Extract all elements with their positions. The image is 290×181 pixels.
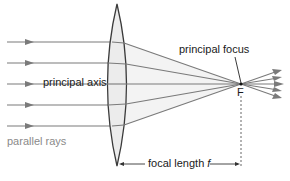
diverging-rays bbox=[241, 69, 284, 99]
arrow-right-icon bbox=[274, 81, 284, 87]
parallel-rays-label: parallel rays bbox=[7, 136, 66, 147]
arrow-right-icon bbox=[25, 123, 34, 129]
diagram-canvas bbox=[0, 0, 290, 181]
arrow-right-icon bbox=[25, 60, 34, 66]
arrow-right-icon bbox=[25, 102, 34, 108]
arrow-right-icon bbox=[272, 87, 282, 92]
focal-length-text: focal length bbox=[148, 157, 204, 169]
arrow-right-icon bbox=[25, 81, 34, 87]
focus-point-label: F bbox=[237, 87, 244, 98]
arrow-right-icon bbox=[272, 69, 282, 75]
principal-axis-label: principal axis bbox=[43, 77, 107, 88]
focal-length-symbol: f bbox=[207, 157, 210, 169]
arrow-right-icon bbox=[235, 162, 240, 166]
arrow-left-icon bbox=[119, 162, 124, 166]
converging-lens-diagram: principal axis principal focus F paralle… bbox=[0, 0, 290, 181]
principal-focus-label: principal focus bbox=[179, 44, 249, 55]
arrow-right-icon bbox=[272, 76, 282, 81]
convex-lens bbox=[108, 4, 127, 166]
focal-length-label: focal length f bbox=[148, 158, 210, 169]
focus-pointer-line bbox=[235, 57, 241, 83]
arrow-right-icon bbox=[25, 39, 34, 45]
arrow-right-icon bbox=[272, 93, 282, 99]
